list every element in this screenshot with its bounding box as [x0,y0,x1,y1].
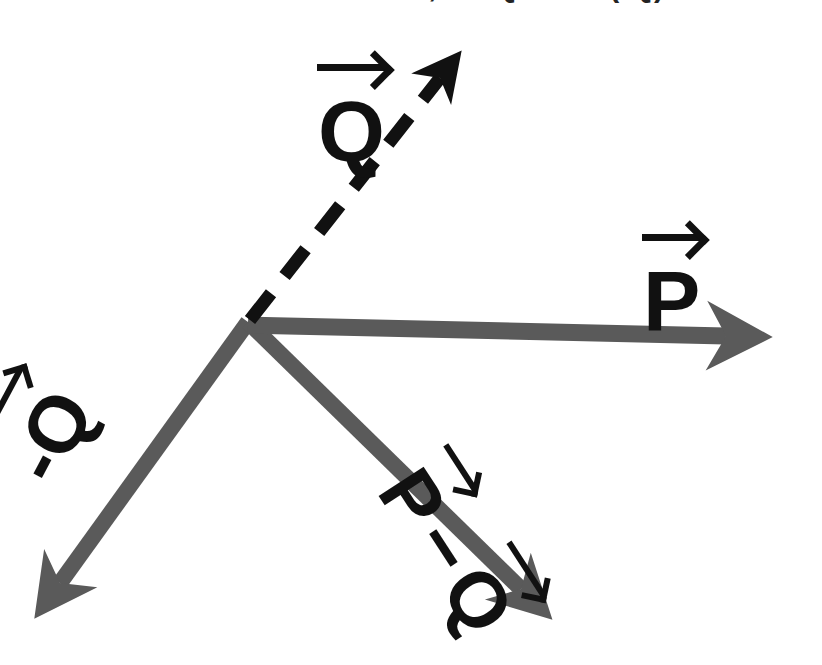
label-q-text: Q [318,88,385,174]
label-vector-p: P [643,232,700,344]
p-over-arrow-accent: P [643,232,700,344]
vector-diagram-canvas: vector subtraction, P - Q = P + (-Q) Q [0,0,822,665]
label-p-text: P [643,258,700,344]
label-vector-q: Q [318,62,385,174]
q-over-arrow-accent: Q [318,62,385,174]
arrow-tip [521,574,550,603]
arrow-tip [453,468,482,497]
